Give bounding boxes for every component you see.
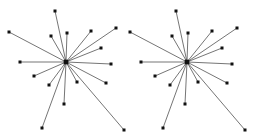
graph-edge (176, 11, 187, 62)
graph-node-leaf[interactable] (48, 84, 51, 87)
graph-edge (55, 11, 66, 62)
graph-edge (187, 28, 237, 62)
graph-node-leaf[interactable] (50, 35, 53, 38)
graph-edge (163, 62, 187, 128)
graph-node-hub[interactable] (64, 60, 69, 65)
graph-edge (66, 33, 67, 62)
graph-node-leaf[interactable] (129, 31, 132, 34)
graph-node-leaf[interactable] (76, 81, 79, 84)
figure-root (0, 0, 253, 136)
graph-node-leaf[interactable] (105, 82, 108, 85)
graph-node-hub[interactable] (185, 60, 190, 65)
graph-edge (64, 62, 66, 104)
graph-node-leaf[interactable] (54, 10, 57, 13)
graph-node-leaf[interactable] (197, 81, 200, 84)
graph-node-leaf[interactable] (8, 31, 11, 34)
graph-edge (187, 62, 245, 130)
graph-edge (187, 62, 232, 64)
graph-node-leaf[interactable] (184, 103, 187, 106)
graph-edge (66, 28, 116, 62)
graph-node-leaf[interactable] (19, 61, 22, 64)
nodes-layer (8, 10, 247, 132)
graph-node-leaf[interactable] (123, 129, 126, 132)
graph-node-leaf[interactable] (66, 32, 69, 35)
graph-edge (187, 33, 188, 62)
graph-node-leaf[interactable] (110, 63, 113, 66)
graph-node-leaf[interactable] (162, 127, 165, 130)
graph-edge (42, 62, 66, 128)
node-link-diagram-canvas (0, 0, 253, 136)
graph-node-leaf[interactable] (90, 30, 93, 33)
graph-node-leaf[interactable] (115, 27, 118, 30)
graph-node-leaf[interactable] (231, 63, 234, 66)
graph-node-leaf[interactable] (175, 10, 178, 13)
graph-node-leaf[interactable] (63, 103, 66, 106)
graph-node-leaf[interactable] (171, 35, 174, 38)
graph-node-leaf[interactable] (169, 84, 172, 87)
graph-node-leaf[interactable] (100, 47, 103, 50)
graph-node-leaf[interactable] (211, 30, 214, 33)
edges-layer (9, 11, 245, 130)
graph-node-leaf[interactable] (226, 82, 229, 85)
graph-node-leaf[interactable] (187, 32, 190, 35)
graph-node-leaf[interactable] (244, 129, 247, 132)
graph-edge (66, 62, 111, 64)
graph-node-leaf[interactable] (236, 27, 239, 30)
graph-node-leaf[interactable] (154, 75, 157, 78)
graph-edge (66, 62, 124, 130)
graph-node-leaf[interactable] (41, 127, 44, 130)
graph-node-leaf[interactable] (33, 75, 36, 78)
graph-node-leaf[interactable] (140, 61, 143, 64)
graph-node-leaf[interactable] (221, 47, 224, 50)
graph-edge (185, 62, 187, 104)
